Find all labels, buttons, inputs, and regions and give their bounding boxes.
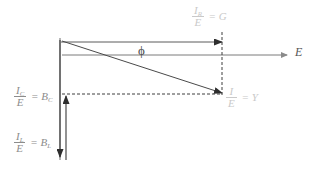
inductive-equals: = BL <box>28 137 51 148</box>
capacitive-denominator: E <box>14 97 26 108</box>
capacitive-fraction: IC E <box>14 85 26 108</box>
inductive-susceptance-label: IL E = BL <box>14 131 51 154</box>
phasor-diagram: IR E = G IC E = BC IL E = BL I E = Y E ϕ <box>0 0 319 173</box>
capacitive-equals: = BC <box>29 91 52 102</box>
conductance-denominator: E <box>192 17 204 28</box>
conductance-equals: = G <box>207 11 227 22</box>
admittance-denominator: E <box>226 98 237 109</box>
admittance-fraction: I E <box>226 86 237 109</box>
conductance-fraction: IR E <box>192 5 204 28</box>
admittance-equals: = Y <box>239 92 257 103</box>
capacitive-numerator: IC <box>14 85 26 97</box>
capacitive-susceptance-label: IC E = BC <box>14 85 52 108</box>
conductance-numerator: IR <box>192 5 204 17</box>
admittance-label: I E = Y <box>226 86 258 109</box>
conductance-label: IR E = G <box>192 5 227 28</box>
phase-angle-label: ϕ <box>138 44 145 57</box>
inductive-denominator: E <box>14 143 25 154</box>
voltage-axis-label: E <box>295 46 302 58</box>
inductive-fraction: IL E <box>14 131 25 154</box>
